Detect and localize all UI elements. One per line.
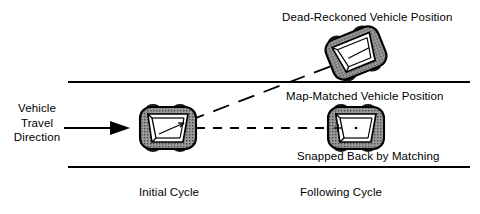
map-matched-vehicle <box>328 104 384 152</box>
travel-direction-line-2: Travel <box>8 116 66 131</box>
label-map-matched-vehicle-position: Map-Matched Vehicle Position <box>286 90 444 102</box>
label-snapped-back-by-matching: Snapped Back by Matching <box>297 150 439 162</box>
label-dead-reckoned-vehicle-position: Dead-Reckoned Vehicle Position <box>282 11 453 23</box>
dead-reckoned-vehicle <box>321 20 391 85</box>
label-initial-cycle: Initial Cycle <box>139 186 199 198</box>
arrow-head-icon <box>110 121 130 135</box>
label-following-cycle: Following Cycle <box>300 186 382 198</box>
travel-direction-arrow <box>64 121 130 135</box>
label-vehicle-travel-direction: Vehicle Travel Direction <box>8 101 66 145</box>
map-matching-diagram: Dead-Reckoned Vehicle Position Map-Match… <box>0 0 480 214</box>
diagram-canvas <box>0 0 480 214</box>
travel-direction-line-3: Direction <box>8 130 66 145</box>
initial-cycle-vehicle <box>140 104 196 152</box>
travel-direction-line-1: Vehicle <box>8 101 66 116</box>
